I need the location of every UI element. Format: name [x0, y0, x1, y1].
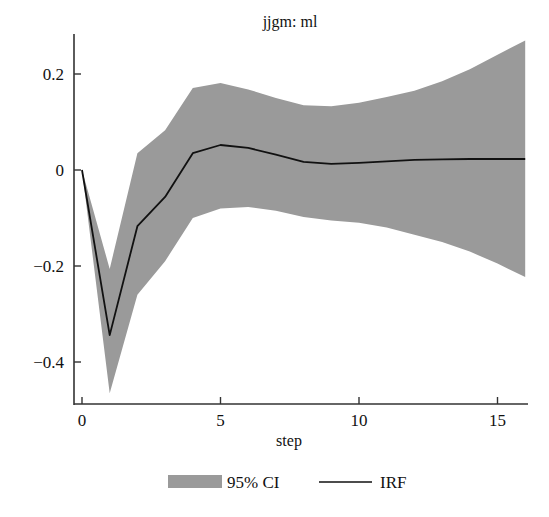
y-axis: 0.20−0.2−0.4 — [33, 34, 81, 405]
y-tick-label: −0.4 — [33, 353, 64, 372]
legend-label-ci: 95% CI — [227, 473, 280, 492]
irf-chart: 0.20−0.2−0.4 051015 jjgm: ml step 95% CI… — [0, 0, 549, 517]
y-tick-label: 0 — [56, 161, 65, 180]
legend-item-irf: IRF — [319, 473, 406, 492]
x-tick-label: 5 — [216, 411, 225, 430]
x-axis: 051015 — [74, 397, 528, 430]
chart-title: jjgm: ml — [262, 13, 318, 31]
legend-item-ci: 95% CI — [168, 473, 280, 492]
plot-area — [82, 40, 525, 393]
legend: 95% CI IRF — [168, 473, 406, 492]
y-tick-label: 0.2 — [43, 65, 64, 84]
x-tick-label: 10 — [351, 411, 368, 430]
x-tick-label: 15 — [489, 411, 506, 430]
legend-label-irf: IRF — [380, 473, 406, 492]
confidence-band — [82, 40, 525, 393]
legend-band-swatch — [168, 475, 222, 488]
y-tick-label: −0.2 — [33, 257, 64, 276]
x-axis-label: step — [276, 432, 302, 450]
x-tick-label: 0 — [78, 411, 87, 430]
